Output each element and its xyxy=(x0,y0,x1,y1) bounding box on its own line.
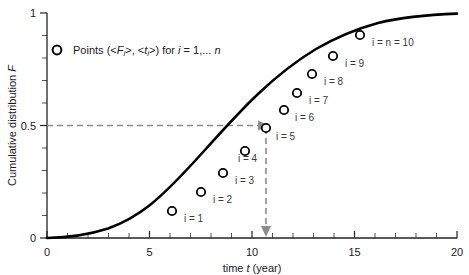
data-points xyxy=(168,31,364,215)
legend-part-a: Points (< xyxy=(73,44,117,56)
x-tick-label-15: 15 xyxy=(348,246,360,258)
data-point-label-5: i = 5 xyxy=(276,131,296,142)
data-point-label-4: i = 4 xyxy=(238,153,258,164)
data-point-label-10: i = n = 10 xyxy=(372,37,414,48)
data-point-8 xyxy=(308,70,316,78)
x-axis-title-pre: time xyxy=(223,262,247,274)
chart-svg: i = 1 i = 2 i = 3 i = 4 i = 5 i = 6 i = … xyxy=(0,0,469,275)
y-tick-label-1: 1 xyxy=(30,7,36,19)
median-guide-arrow-down xyxy=(261,226,271,237)
y-axis-title-var: F xyxy=(6,64,18,72)
data-point-label-8: i = 8 xyxy=(324,76,344,87)
legend-label: Points (<Fi>, <ti>) for i = 1,... n xyxy=(73,44,221,58)
chart-figure: i = 1 i = 2 i = 3 i = 4 i = 5 i = 6 i = … xyxy=(0,0,469,275)
chart-legend: Points (<Fi>, <ti>) for i = 1,... n xyxy=(53,44,221,58)
data-point-10 xyxy=(356,31,364,39)
y-axis-title-pre: Cumulative distribution xyxy=(6,72,18,186)
y-tick-label-0point5: 0.5 xyxy=(21,120,36,132)
x-tick-label-5: 5 xyxy=(146,246,152,258)
legend-marker-open-circle xyxy=(53,46,62,55)
x-axis-title-post: (year) xyxy=(250,262,282,274)
data-point-label-7: i = 7 xyxy=(309,95,329,106)
data-point-label-2: i = 2 xyxy=(213,194,233,205)
x-axis-title: time t (year) xyxy=(223,262,282,274)
x-tick-label-10: 10 xyxy=(246,246,258,258)
legend-part-c: >) for xyxy=(149,44,178,56)
data-point-9 xyxy=(329,52,337,60)
data-point-2 xyxy=(197,188,205,196)
y-axis-title: Cumulative distribution F xyxy=(6,64,18,186)
data-point-5 xyxy=(262,124,270,132)
legend-part-d: = 1,... xyxy=(181,44,215,56)
data-point-label-1: i = 1 xyxy=(184,213,204,224)
legend-var-n: n xyxy=(214,44,220,56)
x-tick-label-0: 0 xyxy=(44,246,50,258)
x-tick-label-20: 20 xyxy=(451,246,463,258)
data-point-3 xyxy=(219,169,227,177)
data-point-7 xyxy=(293,89,301,97)
data-point-1 xyxy=(168,207,176,215)
data-point-label-9: i = 9 xyxy=(345,58,365,69)
legend-part-b: >, < xyxy=(125,44,144,56)
data-point-6 xyxy=(280,106,288,114)
y-tick-label-0: 0 xyxy=(30,232,36,244)
data-point-label-3: i = 3 xyxy=(235,175,255,186)
data-point-labels: i = 1 i = 2 i = 3 i = 4 i = 5 i = 6 i = … xyxy=(184,37,414,224)
data-point-label-6: i = 6 xyxy=(295,112,315,123)
y-major-ticks xyxy=(40,13,47,238)
